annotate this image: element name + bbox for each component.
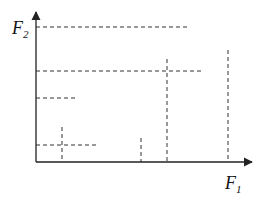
y-axis-label: F2: [12, 19, 29, 40]
x-axis-label-main: F: [225, 173, 236, 193]
y-axis-label-subscript: 2: [23, 28, 29, 40]
x-axis-label-subscript: 1: [236, 183, 242, 195]
x-axis-label: F1: [225, 174, 242, 195]
diagram-canvas: [0, 0, 268, 200]
y-axis-label-main: F: [12, 18, 23, 38]
horizontal-dashed-lines: [36, 27, 202, 145]
